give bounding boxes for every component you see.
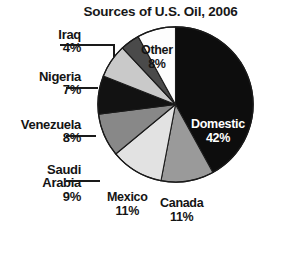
- slice-label-venezuela: Venezuela 8%: [21, 118, 81, 145]
- slice-label-nigeria: Nigeria 7%: [39, 70, 81, 97]
- slice-label-venezuela-percent: 8%: [21, 131, 81, 144]
- pie-chart-figure: Sources of U.S. Oil, 2006 Iraq 4% Nigeri…: [0, 0, 285, 256]
- leader-line-saudi-arabia: [66, 180, 100, 182]
- slice-label-canada-percent: 11%: [160, 211, 203, 225]
- slice-label-mexico-percent: 11%: [107, 205, 148, 219]
- slice-label-other-percent: 8%: [141, 58, 173, 72]
- slice-label-saudi-arabia-percent: 9%: [42, 190, 81, 203]
- slice-label-nigeria-name: Nigeria: [39, 70, 81, 83]
- pie-slice-group: [98, 27, 253, 182]
- slice-label-domestic-percent: 42%: [191, 132, 245, 146]
- chart-title: Sources of U.S. Oil, 2006: [0, 4, 285, 19]
- slice-label-mexico: Mexico 11%: [107, 191, 148, 219]
- slice-label-other: Other 8%: [141, 44, 173, 72]
- slice-label-domestic-name: Domestic: [191, 118, 245, 132]
- slice-label-other-name: Other: [141, 44, 173, 58]
- leader-line-nigeria: [66, 87, 98, 89]
- pie-graphic: [97, 26, 254, 183]
- slice-label-mexico-name: Mexico: [107, 191, 148, 205]
- slice-label-saudi-arabia: Saudi Arabia 9%: [42, 163, 81, 203]
- slice-label-saudi-arabia-name: Saudi: [42, 163, 81, 176]
- slice-label-venezuela-name: Venezuela: [21, 118, 81, 131]
- leader-line-venezuela: [66, 135, 96, 137]
- slice-label-canada: Canada 11%: [160, 197, 203, 225]
- slice-label-iraq-name: Iraq: [58, 28, 81, 41]
- pie-svg: [97, 26, 254, 183]
- slice-label-canada-name: Canada: [160, 197, 203, 211]
- slice-label-iraq: Iraq 4%: [58, 28, 81, 55]
- slice-label-saudi-arabia-name2: Arabia: [42, 176, 81, 189]
- slice-label-domestic: Domestic 42%: [191, 118, 245, 146]
- slice-label-nigeria-percent: 7%: [39, 83, 81, 96]
